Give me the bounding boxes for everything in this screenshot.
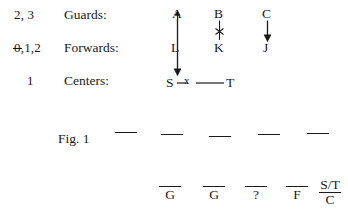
answer-blank-5[interactable]: S/T C [313,178,347,207]
centers-role-label: Centers: [64,73,109,89]
blank-dash-2[interactable] [161,134,183,135]
cross-mark-bk-1 [216,29,224,35]
answer-blank-4[interactable]: F [284,186,310,202]
centers-count: 1 [27,73,34,89]
forwards-count-rest: ,1,2 [21,40,41,55]
forwards-role-label: Forwards: [64,40,119,56]
center-link-x-mark: x [184,75,190,86]
forwards-count: 0,1,2 [14,40,41,56]
figure-canvas: 2, 3 Guards: A B C 0,1,2 Forwards: L K J… [0,0,348,221]
player-letter-t: T [226,76,234,90]
blank-dash-1[interactable] [115,132,137,133]
answer-blank-2[interactable]: G [201,186,227,202]
guards-role-label: Guards: [64,7,107,23]
answer-blank-3[interactable]: ? [243,186,269,202]
player-letter-k: K [214,41,224,55]
answer-blank-1[interactable]: G [157,186,183,202]
answer-blank-3-label: ? [243,188,269,202]
answer-blank-5-fraction: S/T C [319,178,341,207]
player-letter-a: A [172,7,182,21]
answer-blank-1-label: G [157,188,183,202]
answer-blank-2-label: G [201,188,227,202]
blank-dash-3[interactable] [209,136,231,137]
player-letter-b: B [214,7,223,21]
player-letter-c: C [262,7,271,21]
forwards-count-struck-zero: 0 [14,40,21,56]
figure-caption: Fig. 1 [58,131,90,147]
answer-blank-4-label: F [284,188,310,202]
cross-mark-bk-2 [216,29,224,35]
answer-blank-5-numerator: S/T [319,178,341,193]
blank-dash-4[interactable] [258,134,280,135]
blank-dash-5[interactable] [307,133,329,134]
player-letter-j: J [263,41,268,55]
player-letter-l: L [171,41,179,55]
player-letter-s: S [166,76,174,90]
answer-blank-5-denominator: C [319,193,341,207]
guards-count: 2, 3 [14,7,34,23]
